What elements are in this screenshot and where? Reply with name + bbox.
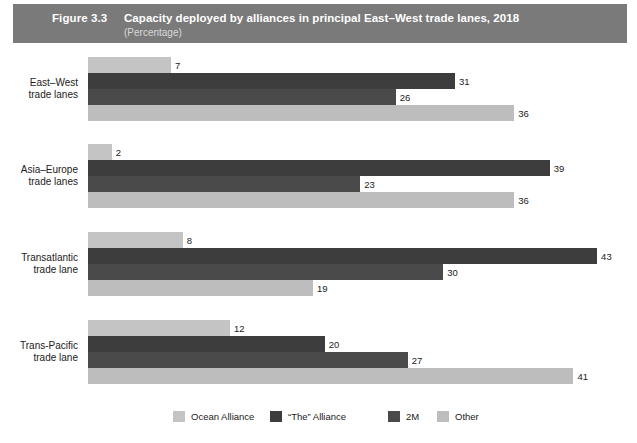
bar-row: 39 [88,160,637,176]
bar-row: 31 [88,73,637,89]
bar-value-label: 7 [171,60,180,71]
category-label: Transatlantictrade lane [0,252,78,277]
category-label-line: trade lane [0,264,78,277]
category-label-line: trade lane [0,352,78,365]
category-label-line: trade lanes [0,89,78,102]
bar-value-label: 27 [408,355,423,366]
chart-legend: Ocean Alliance“The” Alliance2MOther [0,409,637,429]
category-label-line: trade lanes [0,176,78,189]
bar-row: 27 [88,352,637,368]
legend-swatch [388,411,400,422]
bar-2m[interactable] [88,89,396,105]
bar-group: East–Westtrade lanes7312636 [0,57,637,121]
bar-value-label: 43 [597,251,612,262]
bar-ocean-alliance[interactable] [88,232,183,248]
legend-item[interactable]: Ocean Alliance [173,409,254,423]
bar-row: 2 [88,144,637,160]
bar-value-label: 39 [550,163,565,174]
bar-value-label: 30 [443,267,458,278]
bar-row: 20 [88,336,637,352]
bar-value-label: 19 [313,283,328,294]
bar-other[interactable] [88,192,514,208]
bar-value-label: 8 [183,235,192,246]
bar-row: 19 [88,280,637,296]
bar-row: 36 [88,105,637,121]
legend-swatch [270,411,282,422]
bar-value-label: 41 [573,371,588,382]
category-label-line: East–West [0,77,78,90]
chart-plot-area: East–Westtrade lanes7312636Asia–Europetr… [0,43,637,403]
bar-value-label: 31 [455,76,470,87]
bar-row: 36 [88,192,637,208]
bar-other[interactable] [88,105,514,121]
bar-group: Transatlantictrade lane8433019 [0,232,637,296]
legend-item[interactable]: 2M [388,409,419,423]
category-label-line: Transatlantic [0,252,78,265]
bar-row: 41 [88,368,637,384]
bar-value-label: 2 [112,147,121,158]
bar-2m[interactable] [88,264,443,280]
bar-the-alliance[interactable] [88,336,325,352]
bar-row: 30 [88,264,637,280]
legend-swatch [437,411,449,422]
legend-swatch [173,411,185,422]
category-label-line: Asia–Europe [0,164,78,177]
category-label: East–Westtrade lanes [0,77,78,102]
bar-value-label: 36 [514,108,529,119]
figure-header-bar: Figure 3.3 Capacity deployed by alliance… [13,4,627,43]
bar-2m[interactable] [88,352,408,368]
bar-row: 7 [88,57,637,73]
bar-ocean-alliance[interactable] [88,57,171,73]
bar-group: Trans-Pacifictrade lane12202741 [0,320,637,384]
bar-value-label: 23 [360,179,375,190]
category-label-line: Trans-Pacific [0,340,78,353]
bar-the-alliance[interactable] [88,73,455,89]
bar-row: 8 [88,232,637,248]
bar-the-alliance[interactable] [88,160,550,176]
figure-number: Figure 3.3 [52,12,107,24]
bar-other[interactable] [88,280,313,296]
bar-value-label: 26 [396,92,411,103]
bar-other[interactable] [88,368,573,384]
legend-label: Ocean Alliance [191,411,254,422]
bar-ocean-alliance[interactable] [88,320,230,336]
legend-item[interactable]: Other [437,409,479,423]
legend-label: 2M [406,411,419,422]
bar-row: 23 [88,176,637,192]
legend-label: Other [455,411,479,422]
legend-item[interactable]: “The” Alliance [270,409,346,423]
figure-root: Figure 3.3 Capacity deployed by alliance… [0,0,637,443]
bar-group: Asia–Europetrade lanes2392336 [0,144,637,208]
bar-2m[interactable] [88,176,360,192]
legend-label: “The” Alliance [288,411,346,422]
bar-value-label: 12 [230,323,245,334]
bar-row: 26 [88,89,637,105]
bar-row: 43 [88,248,637,264]
category-label: Asia–Europetrade lanes [0,164,78,189]
bar-value-label: 36 [514,195,529,206]
bar-row: 12 [88,320,637,336]
figure-title: Capacity deployed by alliances in princi… [124,12,519,24]
bar-the-alliance[interactable] [88,248,597,264]
bar-value-label: 20 [325,339,340,350]
figure-subtitle: (Percentage) [124,27,182,38]
category-label: Trans-Pacifictrade lane [0,340,78,365]
bar-ocean-alliance[interactable] [88,144,112,160]
